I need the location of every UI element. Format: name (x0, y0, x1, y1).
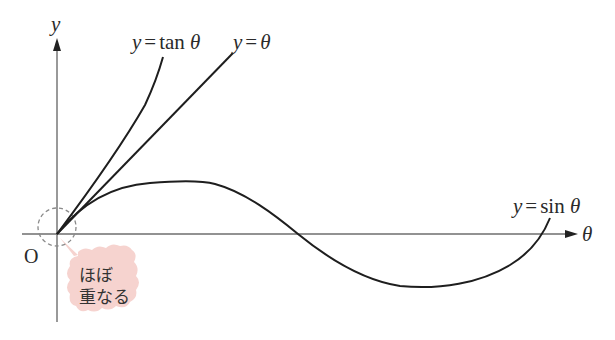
y-axis-arrow-icon (53, 38, 61, 51)
sin-label-eq: = (525, 194, 537, 218)
lin-label-var: θ (260, 30, 270, 54)
linear-curve-label: y=θ (233, 30, 271, 55)
y-axis-label: y (51, 12, 60, 37)
tan-curve (57, 57, 163, 234)
x-axis-arrow-icon (565, 230, 578, 238)
sin-curve-label: y=sin θ (513, 194, 580, 219)
sin-label-func: sin (540, 194, 565, 218)
callout-line-2: 重なる (79, 286, 130, 308)
sin-label-var: θ (570, 194, 580, 218)
tan-label-var: θ (190, 30, 200, 54)
tan-label-eq: = (144, 30, 156, 54)
x-axis-label: θ (582, 222, 592, 247)
tan-curve-label: y=tan θ (132, 30, 200, 55)
origin-label: O (24, 245, 38, 268)
sin-label-y: y (513, 194, 522, 218)
callout-text: ほぼ 重なる (79, 264, 130, 308)
lin-label-eq: = (245, 30, 257, 54)
callout-line-1: ほぼ (79, 264, 130, 286)
tan-label-y: y (132, 30, 141, 54)
tan-label-func: tan (159, 30, 185, 54)
lin-label-y: y (233, 30, 242, 54)
